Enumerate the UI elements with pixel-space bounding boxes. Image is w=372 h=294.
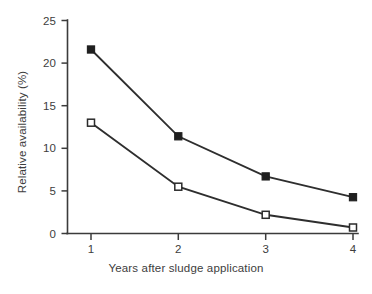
series-line-filled <box>91 50 353 198</box>
y-axis-ticks <box>62 21 68 234</box>
x-axis-title: Years after sludge application <box>0 262 372 274</box>
y-axis-title: Relative availability (%) <box>16 32 28 232</box>
x-tick-label-1: 1 <box>88 243 95 255</box>
y-tick-label-10: 10 <box>30 142 56 154</box>
figure-container: 0 5 10 15 20 25 1 2 3 4 Years after slud… <box>0 0 372 294</box>
series-markers-filled <box>87 46 356 201</box>
x-tick-label-2: 2 <box>175 243 182 255</box>
y-tick-label-15: 15 <box>30 100 56 112</box>
y-tick-label-5: 5 <box>30 185 56 197</box>
series-markers-open <box>88 119 357 231</box>
y-tick-label-25: 25 <box>30 15 56 27</box>
x-tick-label-4: 4 <box>350 243 357 255</box>
figure-caption-partial <box>14 286 354 294</box>
y-tick-label-0: 0 <box>30 228 56 240</box>
series-line-open <box>91 123 353 228</box>
x-tick-label-3: 3 <box>262 243 269 255</box>
y-tick-label-20: 20 <box>30 57 56 69</box>
x-axis-ticks <box>91 234 353 241</box>
